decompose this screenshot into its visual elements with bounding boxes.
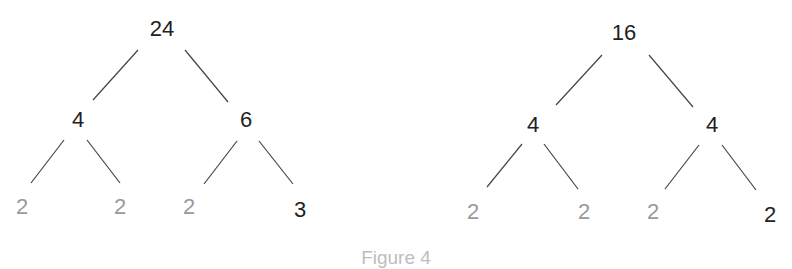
leaf-node: 2 (16, 196, 28, 218)
figure-caption: Figure 4 (361, 247, 431, 269)
edge (185, 50, 228, 102)
leaf-node: 2 (578, 201, 590, 223)
internal-node: 4 (72, 109, 84, 131)
edge (556, 55, 602, 105)
edge (31, 140, 64, 183)
edge (87, 140, 120, 183)
leaf-node: 2 (467, 201, 479, 223)
edge (649, 55, 693, 107)
edge (487, 144, 522, 187)
leaf-node: 2 (183, 196, 195, 218)
root-node: 16 (612, 22, 636, 44)
edge (544, 144, 578, 189)
leaf-node: 2 (114, 196, 126, 218)
root-node: 24 (150, 18, 174, 40)
edge (665, 145, 699, 189)
leaf-node: 2 (764, 204, 776, 226)
edge (93, 50, 138, 100)
internal-node: 4 (527, 114, 539, 136)
internal-node: 6 (240, 109, 252, 131)
leaf-node: 2 (647, 201, 659, 223)
edge (259, 141, 293, 184)
edge (722, 145, 756, 190)
leaf-node: 3 (294, 199, 306, 221)
edge (204, 141, 237, 184)
internal-node: 4 (706, 114, 718, 136)
